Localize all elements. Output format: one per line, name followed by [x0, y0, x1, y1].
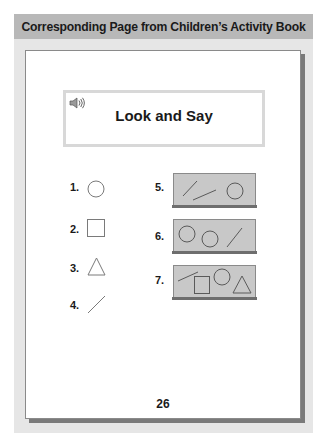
item-number-2: 2.: [70, 223, 79, 235]
item-number-7: 7.: [155, 274, 164, 286]
triangle-icon: [87, 257, 106, 276]
line-icon: [87, 295, 106, 314]
circle-icon: [87, 180, 105, 198]
item-number-5: 5.: [155, 181, 164, 193]
activity-book-page: Look and Say 1. 2. 3. 4. 5. 6. 7.: [25, 50, 301, 419]
square-icon: [87, 219, 105, 237]
shapes-circle-circle-line-icon: [174, 220, 255, 251]
shapes-line-line-circle-icon: [174, 174, 255, 205]
scene-5: [173, 173, 256, 205]
page-number: 26: [26, 397, 300, 411]
scene-7: [173, 265, 256, 297]
title-box: Look and Say: [63, 90, 265, 147]
item-number-6: 6.: [155, 230, 164, 242]
scene-6: [173, 219, 256, 251]
item-number-3: 3.: [70, 262, 79, 274]
panel-title: Corresponding Page from Children’s Activ…: [21, 20, 305, 34]
item-number-1: 1.: [70, 181, 79, 193]
item-number-4: 4.: [70, 299, 79, 311]
page-title: Look and Say: [66, 107, 262, 124]
shapes-line-square-circle-triangle-icon: [174, 266, 255, 297]
panel-header: Corresponding Page from Children’s Activ…: [14, 14, 313, 39]
